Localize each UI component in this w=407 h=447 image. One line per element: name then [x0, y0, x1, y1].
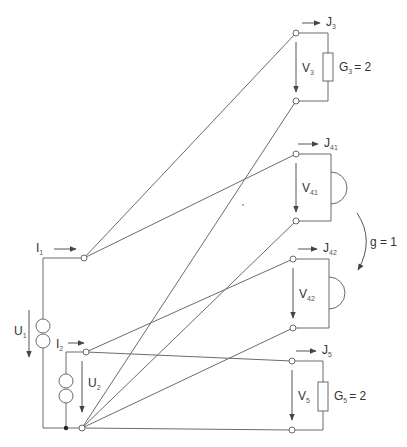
- resistor-icon: [323, 53, 333, 81]
- wire-ground-to-v42: [82, 328, 293, 428]
- terminal-node: [289, 427, 295, 433]
- port-41: J41 V41: [293, 136, 347, 224]
- wire-ground-to-v41: [82, 221, 296, 428]
- label-j3: J3: [326, 15, 336, 30]
- wire-i2-to-j5: [86, 352, 292, 361]
- connection-lines: [82, 33, 296, 430]
- label-v41: V41: [302, 181, 318, 196]
- port-5: J5 V5 G5= 2: [289, 343, 367, 433]
- wire-i2-to-j42: [86, 259, 293, 352]
- label-g5: G5= 2: [334, 389, 367, 404]
- current-source-icon: [59, 374, 73, 388]
- gyrator-port-arc-icon: [329, 277, 345, 309]
- wire-i1-to-j41: [84, 154, 296, 258]
- node-ground: [79, 425, 85, 431]
- terminal-node: [290, 256, 296, 262]
- label-i2: I2: [56, 337, 63, 352]
- label-j42: J42: [323, 241, 337, 256]
- gyrator-port-arc-icon: [331, 172, 347, 204]
- terminal-node: [293, 218, 299, 224]
- label-j41: J41: [324, 136, 338, 151]
- resistor-icon: [318, 382, 328, 411]
- label-g: g = 1: [370, 235, 397, 249]
- label-i1: I1: [36, 241, 43, 256]
- label-u2: U2: [88, 376, 101, 391]
- terminal-node: [289, 358, 295, 364]
- junction-dot: [64, 426, 68, 430]
- terminal-node: [293, 151, 299, 157]
- current-source-icon: [36, 319, 50, 333]
- label-v3: V3: [302, 61, 314, 76]
- terminal-node: [290, 325, 296, 331]
- circuit-diagram: I1 U1 I2 U2 J3 V3 G3= 2 J41 V41: [0, 0, 407, 447]
- wire-ground-to-v3: [82, 101, 296, 428]
- wire-ground-to-v5: [82, 428, 292, 430]
- node-i2: [83, 349, 89, 355]
- label-j5: J5: [322, 343, 332, 358]
- label-g3: G3= 2: [339, 60, 372, 75]
- artifact-dot: [242, 204, 244, 206]
- gyrator-coupling: g = 1: [357, 213, 397, 270]
- coupling-arrow-icon: [357, 213, 366, 270]
- terminal-node: [293, 30, 299, 36]
- port-3: J3 V3 G3= 2: [293, 15, 372, 104]
- terminal-node: [293, 98, 299, 104]
- label-u1: U1: [14, 324, 27, 339]
- port-42: J42 V42: [290, 241, 345, 331]
- node-i1: [81, 255, 87, 261]
- wire-i1-to-j3: [84, 33, 296, 258]
- label-v5: V5: [298, 389, 310, 404]
- source-1: I1 U1: [14, 241, 84, 428]
- label-v42: V42: [299, 287, 315, 302]
